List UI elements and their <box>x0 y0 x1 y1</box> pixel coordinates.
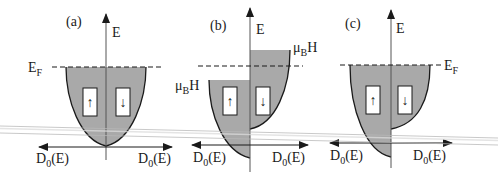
panel-label: (a) <box>66 14 82 30</box>
dos-right-label: D0(E) <box>138 151 171 169</box>
energy-axis-label: E <box>256 22 265 37</box>
spin-down-arrow-icon: ↓ <box>260 94 267 109</box>
energy-axis-label: E <box>396 21 405 36</box>
zeeman-label-left: μBH <box>175 78 199 96</box>
panel-label: (c) <box>345 16 361 32</box>
dos-left-label: D0(E) <box>330 148 363 166</box>
spin-down-arrow-icon: ↓ <box>402 93 409 108</box>
panel-a: ↑ ↓ (a) E EF D0(E) D0(E) <box>28 14 172 169</box>
spin-up-arrow-icon: ↑ <box>87 95 94 110</box>
panel-c: ↑ ↓ (c) E EF D0(E) D0(E) <box>330 10 459 168</box>
panel-label: (b) <box>210 18 227 34</box>
fermi-label: EF <box>28 60 43 78</box>
spin-split-dos-diagram: ↑ ↓ (a) E EF D0(E) D0(E) ↑ ↓ (b) E μBH μ… <box>0 0 498 179</box>
dos-right-label: D0(E) <box>272 150 305 168</box>
dos-left-label: D0(E) <box>36 151 69 169</box>
spin-down-arrow-icon: ↓ <box>120 95 127 110</box>
fermi-label: EF <box>444 58 459 76</box>
dos-right-label: D0(E) <box>413 148 446 166</box>
zeeman-label-right: μBH <box>293 40 317 58</box>
energy-axis-label: E <box>112 25 121 40</box>
panel-b: ↑ ↓ (b) E μBH μBH D0(E) D0(E) <box>175 8 317 172</box>
spin-up-arrow-icon: ↑ <box>370 93 377 108</box>
dos-left-label: D0(E) <box>193 150 226 168</box>
spin-up-arrow-icon: ↑ <box>227 94 234 109</box>
